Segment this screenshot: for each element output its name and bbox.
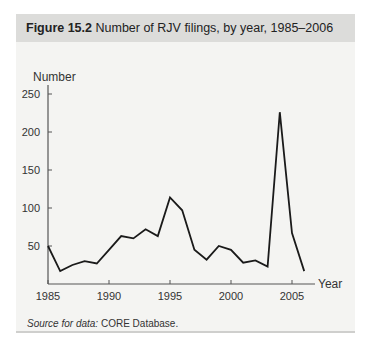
bottom-divider [16,331,355,333]
source-prefix: Source for data: [27,318,98,329]
x-axis-label: Year [318,277,342,291]
y-tick-label: 150 [22,164,40,176]
x-tick-label: 1990 [97,290,121,302]
x-tick-label: 2005 [280,290,304,302]
source-text: CORE Database. [101,318,178,329]
data-line [48,112,304,271]
y-tick-label: 200 [22,126,40,138]
y-tick-label: 50 [28,240,40,252]
y-axis-label: Number [33,70,76,84]
y-tick-label: 250 [22,88,40,100]
line-chart: 5010015020025019851990199520002005Number… [0,0,375,351]
x-tick-label: 1995 [158,290,182,302]
y-tick-label: 100 [22,202,40,214]
x-tick-label: 1985 [36,290,60,302]
source-note: Source for data: CORE Database. [27,318,178,329]
x-tick-label: 2000 [219,290,243,302]
